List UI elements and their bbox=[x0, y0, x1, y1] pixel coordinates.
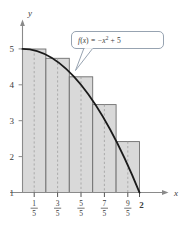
fraction-numerator: 5 bbox=[79, 199, 83, 208]
fraction-numerator: 7 bbox=[103, 199, 107, 208]
riemann-sum-plot: 1 2 3 4 5 1 5 3 5 5 5 bbox=[0, 0, 182, 229]
x-tick-label-two: 2 bbox=[139, 200, 144, 210]
x-axis-arrow bbox=[162, 190, 169, 195]
x-axis-ticks bbox=[34, 193, 139, 198]
y-tick-label: 5 bbox=[10, 44, 15, 54]
fraction-denominator: 5 bbox=[103, 209, 107, 218]
x-tick-label-fraction: 9 5 bbox=[124, 199, 131, 218]
x-tick-labels: 1 5 3 5 5 5 7 5 bbox=[31, 199, 145, 218]
callout-constant: 5 bbox=[117, 36, 121, 45]
y-axis-arrow bbox=[20, 20, 25, 27]
fraction-denominator: 5 bbox=[79, 209, 83, 218]
fraction-numerator: 1 bbox=[32, 199, 36, 208]
fraction-denominator: 5 bbox=[126, 209, 130, 218]
x-tick-label-fraction: 5 5 bbox=[77, 199, 84, 218]
y-tick-labels: 1 2 3 4 5 bbox=[10, 44, 15, 198]
callout-plus: + bbox=[111, 36, 115, 45]
callout-formula: f(x)=−x2+5 bbox=[78, 35, 121, 45]
y-tick-label: 1 bbox=[10, 188, 15, 198]
y-tick-label: 4 bbox=[10, 80, 15, 90]
function-callout: f(x)=−x2+5 bbox=[72, 32, 164, 71]
callout-tail bbox=[76, 48, 94, 71]
y-tick-label: 3 bbox=[10, 116, 15, 126]
fraction-denominator: 5 bbox=[32, 209, 36, 218]
y-axis-label: y bbox=[27, 8, 32, 18]
fraction-denominator: 5 bbox=[56, 209, 60, 218]
callout-equals: = bbox=[91, 36, 95, 45]
x-tick-label-fraction: 3 5 bbox=[54, 199, 61, 218]
fraction-numerator: 9 bbox=[126, 199, 130, 208]
y-tick-label: 2 bbox=[10, 152, 15, 162]
calculus-figure: 1 2 3 4 5 1 5 3 5 5 5 bbox=[0, 0, 182, 229]
fraction-numerator: 3 bbox=[56, 199, 60, 208]
callout-exponent: 2 bbox=[106, 35, 109, 41]
x-tick-label-fraction: 1 5 bbox=[31, 199, 38, 218]
x-tick-label-fraction: 7 5 bbox=[101, 199, 108, 218]
x-axis-label: x bbox=[173, 188, 178, 198]
callout-tail-joint-cover bbox=[85, 45, 93, 49]
y-axis-ticks bbox=[19, 49, 23, 193]
